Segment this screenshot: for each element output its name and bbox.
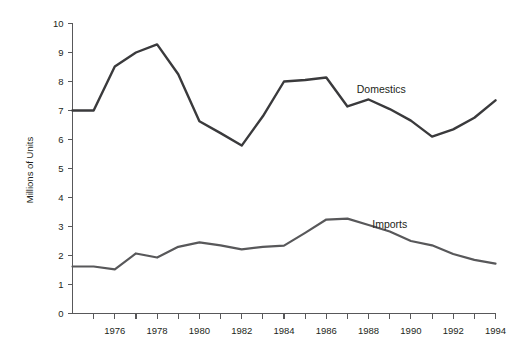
y-tick-label: 2 (58, 250, 63, 261)
x-tick-label: 1976 (104, 325, 125, 336)
axes-group (73, 24, 496, 314)
line-chart: 012345678910 197619781980198219841986198… (0, 0, 526, 350)
x-tick-label: 1984 (273, 325, 294, 336)
series-group (73, 44, 496, 269)
y-tick-label: 6 (58, 134, 63, 145)
x-tick-label: 1990 (400, 325, 421, 336)
y-tick-label: 8 (58, 76, 63, 87)
x-tick-label: 1982 (231, 325, 252, 336)
x-tick-label: 1978 (147, 325, 168, 336)
y-tick-label: 5 (58, 163, 63, 174)
x-tick-label: 1994 (485, 325, 506, 336)
series-line-domestics (73, 44, 496, 145)
y-tick-label: 0 (58, 308, 63, 319)
series-label-domestics: Domestics (357, 83, 406, 95)
series-line-imports (73, 219, 496, 270)
y-tick-label: 3 (58, 221, 63, 232)
chart-canvas: 012345678910 197619781980198219841986198… (0, 0, 526, 350)
y-axis-title: Millions of Units (24, 136, 35, 203)
y-tick-label: 10 (53, 18, 64, 29)
y-tick-label: 1 (58, 279, 63, 290)
y-tick-label: 9 (58, 47, 63, 58)
y-tick-label: 7 (58, 105, 63, 116)
x-axis-ticks: 1976197819801982198419861988199019921994 (94, 314, 506, 336)
y-axis-ticks: 012345678910 (53, 18, 73, 319)
series-label-imports: Imports (372, 218, 407, 230)
x-tick-label: 1988 (358, 325, 379, 336)
y-tick-label: 4 (58, 192, 63, 203)
x-tick-label: 1980 (189, 325, 210, 336)
x-tick-label: 1992 (443, 325, 464, 336)
x-tick-label: 1986 (316, 325, 337, 336)
